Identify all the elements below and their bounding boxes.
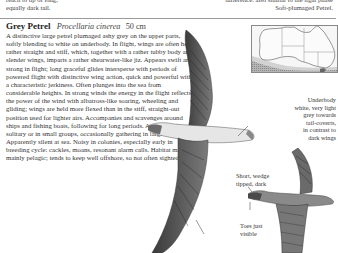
annotation-line: tail-coverts, xyxy=(250,119,336,127)
common-name: Grey Petrel xyxy=(6,21,50,31)
previous-entry-line: equally dark tail. xyxy=(6,4,166,12)
previous-entry-right-text: difference: also similar to the light ph… xyxy=(183,0,333,13)
underbody-pointer xyxy=(236,124,250,138)
annotation-line: dark wings xyxy=(250,134,336,142)
scientific-name: Procellaria cinerea xyxy=(57,22,121,31)
annotation-underbody: Underbody white, very light grey towards… xyxy=(250,96,336,142)
annotation-toes: Toes just visible xyxy=(240,222,290,237)
grey-petrel-underside-illustration xyxy=(148,30,258,253)
annotation-line: visible xyxy=(240,230,290,238)
grey-petrel-upperside-illustration xyxy=(248,148,336,253)
annotation-tail: Short, wedge tipped, dark xyxy=(236,172,296,187)
previous-entry-tail-text: reach to tip of long, equally dark tail. xyxy=(6,0,166,13)
annotation-line: white, very light xyxy=(250,104,336,112)
annotation-line: Toes just xyxy=(240,222,290,230)
annotation-line: grey towards xyxy=(250,111,336,119)
annotation-line: Short, wedge xyxy=(236,172,296,180)
species-size: 50 cm xyxy=(126,22,146,31)
annotation-line: Underbody xyxy=(250,96,336,104)
section-divider xyxy=(0,18,336,19)
australia-map-icon xyxy=(252,26,337,72)
annotation-line: in contrast to xyxy=(250,126,336,134)
previous-entry-line: Soft-plumaged Petrel. xyxy=(183,4,333,12)
species-heading: Grey Petrel Procellaria cinerea 50 cm xyxy=(6,21,146,31)
range-map xyxy=(251,25,338,73)
annotation-line: tipped, dark xyxy=(236,180,296,188)
